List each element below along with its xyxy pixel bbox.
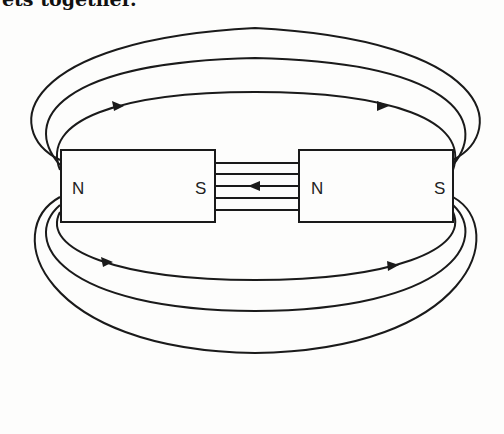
gap-field-lines bbox=[215, 163, 299, 210]
right-magnet-s-label: S bbox=[434, 179, 445, 198]
arrow-right-icon bbox=[387, 261, 399, 271]
left-magnet-s-label: S bbox=[195, 179, 206, 198]
top-field-lines bbox=[31, 28, 480, 170]
arrow-right-icon bbox=[377, 101, 389, 111]
magnet-field-diagram: N S N S bbox=[0, 0, 504, 434]
right-magnet-n-label: N bbox=[311, 179, 323, 198]
arrow-right-icon bbox=[101, 257, 113, 267]
left-magnet-n-label: N bbox=[72, 179, 84, 198]
arrow-right-icon bbox=[112, 101, 124, 111]
